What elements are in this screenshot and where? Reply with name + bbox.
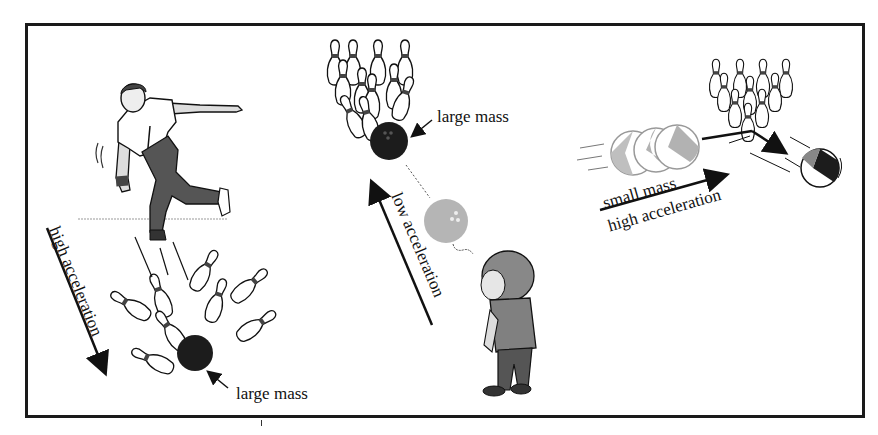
- adult-bowler: [47, 84, 279, 388]
- child-bowler: [327, 40, 536, 396]
- panel2-mass-label: large mass: [437, 108, 509, 125]
- illustration: [0, 0, 878, 435]
- page-mark: [261, 420, 262, 426]
- panel1-mass-label: large mass: [236, 385, 308, 402]
